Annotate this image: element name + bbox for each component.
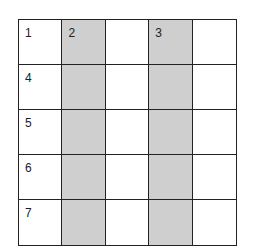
grid-cell	[62, 200, 105, 245]
cell-number: 6	[25, 161, 32, 175]
grid-cell	[106, 155, 149, 200]
grid-cell: 6	[19, 155, 62, 200]
grid-cell	[106, 110, 149, 155]
grid-cell	[193, 20, 236, 65]
crossword-grid: 1234567	[18, 19, 237, 246]
cell-number: 4	[25, 71, 32, 85]
grid-cell	[62, 65, 105, 110]
grid-cell	[193, 200, 236, 245]
cell-number: 2	[68, 26, 75, 40]
grid-cell	[149, 155, 192, 200]
grid-cell	[149, 65, 192, 110]
cell-number: 5	[25, 116, 32, 130]
cell-number: 1	[25, 26, 32, 40]
grid-cell	[193, 155, 236, 200]
grid-cell	[106, 20, 149, 65]
grid-cell: 5	[19, 110, 62, 155]
grid-cell	[149, 110, 192, 155]
cell-number: 7	[25, 206, 32, 220]
grid-cell: 1	[19, 20, 62, 65]
grid-cell	[193, 65, 236, 110]
grid-cell	[193, 110, 236, 155]
grid-cell: 3	[149, 20, 192, 65]
grid-cell: 4	[19, 65, 62, 110]
grid-cell	[62, 110, 105, 155]
grid-cell: 7	[19, 200, 62, 245]
grid-cell	[149, 200, 192, 245]
grid-cell: 2	[62, 20, 105, 65]
cell-number: 3	[155, 26, 162, 40]
grid-cell	[106, 65, 149, 110]
grid-cell	[62, 155, 105, 200]
grid-cell	[106, 200, 149, 245]
